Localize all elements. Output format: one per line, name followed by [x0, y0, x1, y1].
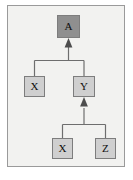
node-y-label: Y: [80, 81, 88, 92]
node-x-middle-left-label: X: [30, 81, 38, 92]
arrowhead-into-y1: [80, 97, 88, 107]
node-z[interactable]: Z: [95, 138, 116, 159]
node-a[interactable]: A: [57, 15, 80, 38]
node-x-middle-left[interactable]: X: [24, 76, 45, 97]
node-x-bottom-left[interactable]: X: [52, 138, 73, 159]
arrowhead-into-a: [65, 38, 73, 48]
node-x-bottom-left-label: X: [58, 143, 66, 154]
node-a-label: A: [64, 21, 72, 32]
node-y[interactable]: Y: [73, 76, 95, 97]
diagram-canvas: A X Y X Z: [0, 0, 133, 180]
node-z-label: Z: [102, 143, 109, 154]
